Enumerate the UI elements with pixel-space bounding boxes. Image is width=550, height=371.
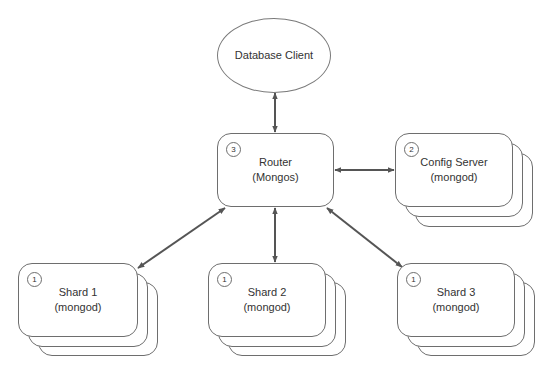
- shard-1-subtitle: (mongod): [54, 300, 101, 315]
- shard-3-title: Shard 3: [437, 285, 476, 300]
- edge-router-shard3: [327, 208, 402, 267]
- shard-1-title: Shard 1: [59, 285, 98, 300]
- router-node: 3 Router (Mongos): [217, 133, 334, 207]
- shard-3-stack: 1 Shard 3 (mongod): [397, 263, 539, 359]
- router-badge: 3: [226, 142, 241, 157]
- shard-2-subtitle: (mongod): [243, 300, 290, 315]
- shard-3-node: 1 Shard 3 (mongod): [397, 263, 515, 337]
- shard-3-badge: 1: [406, 272, 421, 287]
- shard-2-node: 1 Shard 2 (mongod): [208, 263, 326, 337]
- config-server-stack: 2 Config Server (mongod): [395, 133, 535, 229]
- shard-2-badge: 1: [217, 272, 232, 287]
- shard-1-node: 1 Shard 1 (mongod): [18, 263, 138, 337]
- config-server-badge: 2: [404, 142, 419, 157]
- database-client-label: Database Client: [235, 48, 313, 63]
- router-title: Router: [259, 155, 292, 170]
- config-server-title: Config Server: [420, 155, 487, 170]
- router-subtitle: (Mongos): [252, 170, 298, 185]
- shard-2-title: Shard 2: [248, 285, 287, 300]
- shard-3-subtitle: (mongod): [432, 300, 479, 315]
- edge-router-shard1: [138, 208, 225, 268]
- shard-2-stack: 1 Shard 2 (mongod): [208, 263, 350, 359]
- shard-1-stack: 1 Shard 1 (mongod): [18, 263, 160, 359]
- shard-1-badge: 1: [27, 272, 42, 287]
- config-server-node: 2 Config Server (mongod): [395, 133, 513, 207]
- diagram-canvas: Database Client 3 Router (Mongos) 2 Conf…: [0, 0, 550, 371]
- config-server-subtitle: (mongod): [430, 170, 477, 185]
- database-client-node: Database Client: [217, 18, 331, 93]
